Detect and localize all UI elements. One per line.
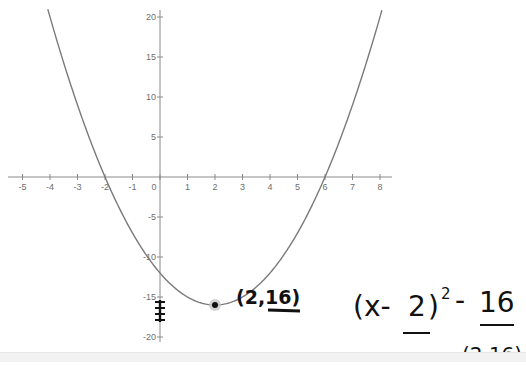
svg-text:-: -	[455, 284, 465, 317]
y-tick-label: 15	[146, 52, 156, 62]
x-tick-label: 5	[295, 182, 300, 192]
x-tick-label: -1	[128, 182, 136, 192]
x-tick-label: 2	[212, 182, 217, 192]
y-tick-label: 10	[146, 92, 156, 102]
y-tick-label: 5	[151, 132, 156, 142]
svg-text:16: 16	[479, 286, 515, 319]
x-tick-label: -3	[73, 182, 81, 192]
x-tick-label: 6	[322, 182, 327, 192]
y-tick-label: 20	[146, 12, 156, 22]
x-tick-label: 1	[185, 182, 190, 192]
x-tick-label: 7	[350, 182, 355, 192]
handwritten-scribble-under	[268, 310, 300, 311]
x-tick-label: 3	[240, 182, 245, 192]
y-tick-label: -20	[143, 332, 156, 342]
y-tick-label: -5	[148, 212, 156, 222]
parabola-curve	[48, 9, 382, 305]
x-tick-label: 8	[377, 182, 382, 192]
svg-text:2: 2	[441, 285, 451, 303]
svg-text:2: 2	[408, 290, 426, 323]
vertex-point[interactable]	[212, 302, 218, 308]
x-tick-label: 0	[151, 182, 156, 192]
y-tick-label: -15	[143, 292, 156, 302]
vertex-form-handwritten: (x- 2 ) 2 - 16	[353, 284, 515, 333]
x-tick-label: 4	[267, 182, 272, 192]
svg-text:(x-: (x-	[353, 290, 391, 323]
svg-text:): )	[428, 290, 439, 323]
handwritten-scribble-marks	[155, 300, 165, 322]
vertex-handwritten-label: (2,16)	[236, 286, 300, 308]
bottom-strip	[0, 352, 526, 362]
x-tick-label: -4	[46, 182, 54, 192]
x-tick-label: -5	[18, 182, 26, 192]
